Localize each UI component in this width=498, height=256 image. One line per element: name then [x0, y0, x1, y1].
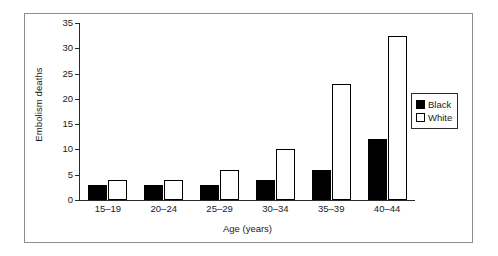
- bar-black[interactable]: [368, 139, 387, 200]
- y-tick-mark: [75, 149, 79, 150]
- bar-black[interactable]: [312, 170, 331, 200]
- filled-square-icon: [416, 100, 425, 109]
- legend-label: Black: [428, 99, 451, 110]
- x-axis-tick-labels: 15–1920–2425–2930–3435–3940–44: [80, 203, 415, 214]
- y-tick-mark: [75, 99, 79, 100]
- bar-chart: Embolism deaths 35302520151050 15–1920–2…: [25, 14, 474, 244]
- x-tick-label: 20–24: [136, 203, 192, 214]
- plot-area: [79, 23, 415, 201]
- x-tick-label: 40–44: [359, 203, 415, 214]
- y-tick-label: 30: [51, 43, 73, 53]
- bar-group: [247, 23, 303, 200]
- y-tick-label: 25: [51, 69, 73, 79]
- x-axis-line: [79, 200, 415, 201]
- chart-legend: BlackWhite: [411, 93, 458, 129]
- y-tick-mark: [75, 124, 79, 125]
- legend-label: White: [428, 112, 452, 123]
- y-axis-title: Embolism deaths: [33, 35, 44, 175]
- legend-item[interactable]: Black: [416, 98, 452, 111]
- y-tick-label: 5: [51, 170, 73, 180]
- bar-black[interactable]: [256, 180, 275, 200]
- hollow-square-icon: [416, 113, 425, 122]
- bar-black[interactable]: [144, 185, 163, 200]
- x-tick-label: 15–19: [80, 203, 136, 214]
- bar-groups: [80, 23, 415, 200]
- x-tick-label: 30–34: [247, 203, 303, 214]
- y-tick-mark: [75, 74, 79, 75]
- bar-white[interactable]: [220, 170, 239, 200]
- bar-group: [359, 23, 415, 200]
- y-tick-label: 10: [51, 144, 73, 154]
- bar-white[interactable]: [276, 149, 295, 200]
- bar-group: [136, 23, 192, 200]
- y-tick-mark: [75, 23, 79, 24]
- y-axis-tick-labels: 35302520151050: [45, 14, 73, 244]
- y-tick-label: 20: [51, 94, 73, 104]
- bar-white[interactable]: [164, 180, 183, 200]
- y-tick-mark: [75, 200, 79, 201]
- bar-group: [80, 23, 136, 200]
- y-tick-label: 35: [51, 18, 73, 28]
- bar-group: [303, 23, 359, 200]
- bar-black[interactable]: [200, 185, 219, 200]
- figure-frame: Embolism deaths 35302520151050 15–1920–2…: [24, 13, 473, 243]
- bar-white[interactable]: [388, 36, 407, 200]
- x-tick-label: 25–29: [192, 203, 248, 214]
- bar-white[interactable]: [332, 84, 351, 200]
- y-tick-mark: [75, 175, 79, 176]
- bar-group: [192, 23, 248, 200]
- x-tick-label: 35–39: [303, 203, 359, 214]
- x-axis-title: Age (years): [80, 223, 415, 234]
- y-tick-label: 0: [51, 195, 73, 205]
- bar-black[interactable]: [88, 185, 107, 200]
- y-tick-label: 15: [51, 119, 73, 129]
- legend-item[interactable]: White: [416, 111, 452, 124]
- y-tick-mark: [75, 48, 79, 49]
- bar-white[interactable]: [108, 180, 127, 200]
